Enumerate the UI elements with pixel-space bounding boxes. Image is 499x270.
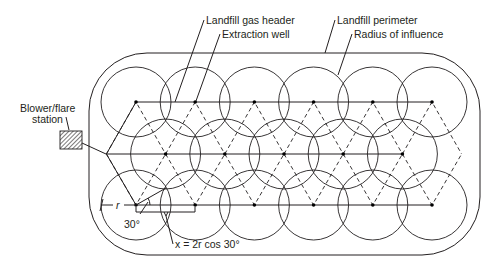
perimeter-leader-line (325, 20, 335, 53)
x-bracket-notch (164, 212, 168, 216)
landfill-well-layout-diagram: Blower/flare station Landfill gas header… (0, 0, 499, 270)
angle-arc (148, 198, 150, 205)
extraction-well-r2-c3 (282, 152, 286, 156)
extraction-well-r1-c4 (312, 100, 316, 104)
well-label: Extraction well (222, 28, 290, 40)
extraction-well-r2-c4 (341, 152, 345, 156)
extraction-well-r3-c5 (371, 203, 375, 207)
r-label: r (116, 199, 120, 211)
extraction-well-r1-c3 (253, 100, 257, 104)
blower-leader-line (66, 117, 69, 130)
extraction-well-r3-c2 (193, 203, 197, 207)
radius-label: Radius of influence (354, 28, 443, 40)
perimeter-label: Landfill perimeter (337, 14, 418, 26)
extraction-well-r2-c1 (164, 152, 168, 156)
formula-label: x = 2r cos 30° (175, 238, 240, 250)
extraction-well-r3-c4 (312, 203, 316, 207)
header-label: Landfill gas header (206, 14, 295, 26)
extraction-well-r3-c6 (430, 203, 434, 207)
extraction-well-r3-c3 (253, 203, 257, 207)
blower-connection-line (82, 143, 106, 154)
angle-label: 30° (124, 218, 140, 230)
extraction-well-r2-c5 (401, 152, 405, 156)
blower-label-line2-text: station (32, 113, 63, 125)
gas-header-lines (106, 102, 432, 205)
formula-leader (166, 216, 173, 244)
radius-leader-line (338, 34, 352, 75)
extraction-well-r1-c6 (430, 100, 434, 104)
extraction-well-r1-c1 (134, 100, 138, 104)
blower-flare-station-icon (60, 131, 82, 149)
extraction-well-r1-c5 (371, 100, 375, 104)
x-dimension-bracket (136, 207, 195, 212)
extraction-well-r2-c2 (223, 152, 227, 156)
